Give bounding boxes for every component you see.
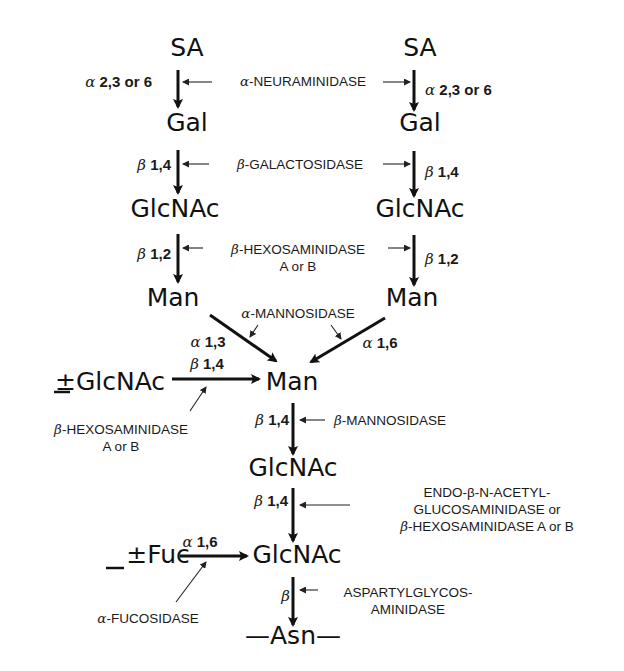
enzyme-mannosidase-alpha: α-MANNOSIDASE xyxy=(241,305,354,321)
linkage-fuc-a16: α 1,6 xyxy=(182,533,217,551)
linkage-gal-glcnac-right: β 1,4 xyxy=(424,163,459,181)
linkage-man-man-a13: α 1,3 xyxy=(190,333,225,351)
enzyme-neuraminidase: α-NEURAMINIDASE xyxy=(240,73,366,89)
node-fuc: ±Fuc xyxy=(126,540,190,569)
node-gal-left: Gal xyxy=(166,108,208,137)
enzyme-fucosidase: α-FUCOSIDASE xyxy=(97,610,198,626)
linkage-glcnac-man-left: β 1,2 xyxy=(136,245,171,263)
node-glcnac-core1: GlcNAc xyxy=(248,453,337,482)
node-man-left: Man xyxy=(147,283,200,312)
node-glcnac-left: GlcNAc xyxy=(130,194,219,223)
node-sa-left: SA xyxy=(170,33,203,62)
enzyme-mannosidase-beta: β-MANNOSIDASE xyxy=(333,412,446,428)
linkage-man-glcnac: β 1,4 xyxy=(254,411,289,429)
plus-minus-signs xyxy=(54,392,124,568)
node-man-core: Man xyxy=(266,367,319,396)
node-glcnac-core2: GlcNAc xyxy=(252,540,341,569)
node-glcnac-right: GlcNAc xyxy=(375,194,464,223)
linkage-glcnac-glcnac: β 1,4 xyxy=(253,492,288,510)
node-glcnac-bisect: ±GlcNAc xyxy=(55,367,165,396)
linkage-bisect-b14: β 1,4 xyxy=(189,355,224,373)
node-sa-right: SA xyxy=(403,33,436,62)
pointer-hexosaminidase-bisect xyxy=(190,387,206,411)
node-man-right: Man xyxy=(386,283,439,312)
linkage-glcnac-man-right: β 1,2 xyxy=(424,250,459,268)
node-gal-right: Gal xyxy=(399,108,441,137)
node-asn: —Asn— xyxy=(245,621,341,650)
glycan-degradation-diagram: SASAGalGalGlcNAcGlcNAcManManMan±GlcNAcGl… xyxy=(0,0,624,671)
enzyme-endo-glucosaminidase: ENDO-β-N-ACETYL-GLUCOSAMINIDASE orβ-HEXO… xyxy=(399,485,574,534)
sugar-nodes: SASAGalGalGlcNAcGlcNAcManManMan±GlcNAcGl… xyxy=(55,33,465,650)
linkage-glcnac-asn: β xyxy=(280,587,290,605)
linkage-man-man-a16: α 1,6 xyxy=(362,334,397,352)
pointer-mannosidase-alpha-left xyxy=(250,325,258,337)
enzyme-hexosaminidase-bisect: β-HEXOSAMINIDASEA or B xyxy=(53,421,188,454)
linkage-sa-gal-left: α 2,3 or 6 xyxy=(85,73,152,91)
enzyme-aspartylglycosaminidase: ASPARTYLGLYCOS-AMINIDASE xyxy=(343,585,472,617)
linkage-gal-glcnac-left: β 1,4 xyxy=(136,156,171,174)
linkage-sa-gal-right: α 2,3 or 6 xyxy=(425,81,492,99)
enzyme-galactosidase: β-GALACTOSIDASE xyxy=(236,156,363,172)
enzyme-hexosaminidase-top: β-HEXOSAMINIDASEA or B xyxy=(230,241,365,274)
pointer-mannosidase-alpha-right xyxy=(331,325,341,339)
